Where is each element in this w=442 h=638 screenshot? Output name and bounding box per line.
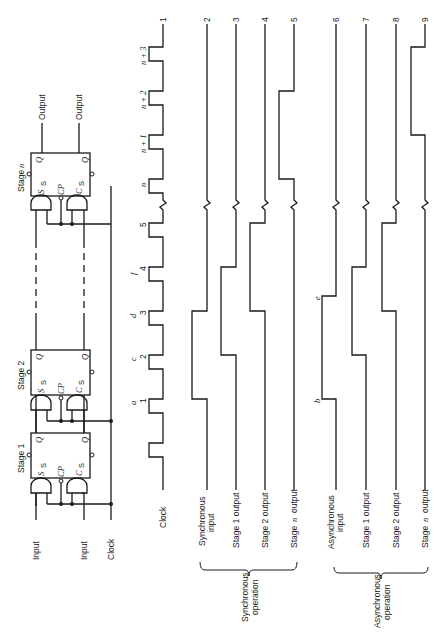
sync-stagen-waveform: [279, 24, 297, 490]
set-input-label: Input: [31, 540, 41, 560]
sync-stagen-label-prefix: Stage: [289, 526, 299, 548]
sync-group-label-1: Synchronous: [240, 572, 250, 622]
set-and-gate-icon: [31, 195, 51, 210]
qbar-output-label: Output: [74, 94, 84, 120]
stage-1-set-sub: S: [39, 463, 48, 468]
line-number-6: 6: [331, 17, 341, 22]
async-input-waveform: [322, 24, 339, 490]
stage-2-flipflop: S S CP C S Q Q̄ Stage 2: [16, 245, 113, 433]
cp-bubble-icon: [59, 196, 63, 200]
sync-stage1-label: Stage 1 output: [231, 492, 241, 548]
line-number-7: 7: [361, 17, 371, 22]
line-number-5: 5: [289, 17, 299, 22]
async-stagen-label-var: n: [420, 518, 430, 522]
preset-bubble-icon: [27, 172, 31, 176]
clear-bubble-icon: [90, 172, 94, 176]
circuit-schematic: S S CP C S Q Q̄ Stage 1: [16, 94, 116, 560]
clock-waveform: [149, 24, 166, 490]
async-group-label-2: operation: [382, 584, 392, 620]
line-number-9: 9: [420, 17, 430, 22]
shift-register-timing-diagram: S S CP C S Q Q̄ Stage 1: [0, 0, 442, 638]
clear-bubble-icon: [90, 370, 94, 374]
async-stagen-waveform: [411, 24, 428, 490]
stage-2-set-pin: S: [36, 388, 46, 393]
marker-e: e: [312, 296, 322, 300]
line-number-2: 2: [202, 17, 212, 22]
stage-1-q-pin: Q: [34, 437, 44, 443]
async-stage1-waveform: [352, 24, 369, 490]
stage-n-clear-sub: S: [77, 181, 86, 186]
async-stage2-label: Stage 2 output: [391, 492, 401, 548]
sync-stage1-waveform: [221, 24, 239, 490]
pulse-label-n-plus-3: n + 3: [138, 47, 148, 66]
sync-stagen-label-var: n: [289, 518, 299, 522]
stage-n-cp-pin: CP: [56, 184, 66, 195]
stage-1-flipflop: S S CP C S Q Q̄ Stage 1: [16, 395, 113, 506]
line-number-3: 3: [231, 17, 241, 22]
clock-signal-label: Clock: [158, 506, 168, 528]
stage-2-clear-pin: C: [74, 387, 84, 393]
stage-1-label: Stage 1: [16, 443, 26, 473]
async-stagen-label-suffix: output: [420, 489, 430, 513]
clear-input-label: Input: [79, 540, 89, 560]
sync-input-label-2: input: [206, 513, 216, 532]
stage-n-qbar-pin: Q̄: [80, 157, 90, 163]
pulse-label-n: n: [138, 183, 148, 187]
cp-bubble-icon: [59, 479, 63, 483]
clear-bubble-icon: [90, 453, 94, 457]
set-and-gate-icon: [31, 395, 51, 410]
sync-input-waveform: [192, 24, 210, 490]
stage-2-q-pin: Q: [34, 354, 44, 360]
async-input-label-2: input: [335, 513, 345, 532]
stage-2-clear-sub: S: [77, 380, 86, 385]
line-number-1: 1: [158, 17, 168, 22]
sync-group-label-2: operation: [250, 579, 260, 615]
pulse-label-2: 2: [138, 354, 148, 359]
clear-and-gate-icon: [67, 195, 87, 210]
stage-1-cp-pin: CP: [56, 466, 66, 477]
marker-d: d: [128, 313, 138, 318]
preset-bubble-icon: [27, 370, 31, 374]
clock-input-label: Clock: [106, 538, 116, 560]
sync-stagen-label-suffix: output: [289, 489, 299, 513]
stage-n-q-pin: Q: [34, 157, 44, 163]
clear-and-gate-icon: [67, 478, 87, 493]
pulse-label-n-plus-2: n + 2: [138, 90, 148, 109]
stage-2-set-sub: S: [39, 380, 48, 385]
stage-n-flipflop: S S CP C S Q Q̄ Stage n Output Output: [16, 94, 111, 245]
marker-c: c: [128, 357, 138, 361]
stage-n-set-pin: S: [36, 189, 46, 194]
stage-n-clear-pin: C: [74, 188, 84, 194]
pulse-label-4: 4: [138, 266, 148, 271]
async-stagen-label-prefix: Stage: [420, 526, 430, 548]
preset-bubble-icon: [27, 453, 31, 457]
pulse-label-1: 1: [138, 398, 148, 403]
stage-1-clear-pin: C: [74, 470, 84, 476]
sync-stage2-waveform: [250, 24, 268, 490]
line-number-8: 8: [391, 17, 401, 22]
stage-n-label-prefix: Stage: [16, 170, 26, 192]
sync-stage2-label: Stage 2 output: [260, 492, 270, 548]
cp-bubble-icon: [59, 396, 63, 400]
stage-1-qbar-pin: Q̄: [80, 437, 90, 443]
stage-1-clear-sub: S: [77, 463, 86, 468]
line-number-4: 4: [260, 17, 270, 22]
pulse-label-n-plus-1: n + 1: [138, 135, 148, 154]
pulse-label-3: 3: [138, 310, 148, 315]
stage-n-label-var: n: [16, 164, 26, 168]
stage-1-set-pin: S: [36, 471, 46, 476]
set-and-gate-icon: [31, 478, 51, 493]
timing-diagram: 1 2 3 4 5 6 7 8 9 1 2 3 4 5 n n + 1 n + …: [128, 17, 430, 628]
stage-2-label: Stage 2: [16, 360, 26, 390]
stage-2-qbar-pin: Q̄: [80, 354, 90, 360]
marker-b: b: [312, 399, 322, 403]
async-stage1-label: Stage 1 output: [361, 492, 371, 548]
marker-f: f: [128, 271, 138, 275]
async-stage2-waveform: [382, 24, 399, 490]
marker-a: a: [128, 401, 138, 405]
stage-n-set-sub: S: [39, 181, 48, 186]
stage-2-cp-pin: CP: [56, 383, 66, 394]
async-group-label-1: Asynchronous: [372, 574, 382, 628]
q-output-label: Output: [37, 94, 47, 120]
pulse-label-5: 5: [138, 222, 148, 227]
